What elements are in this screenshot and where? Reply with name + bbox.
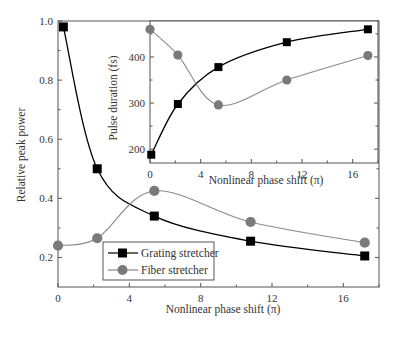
circle-marker-icon	[360, 238, 370, 248]
inset-y-tick-label: 400	[129, 51, 146, 63]
legend-item-fiber: Fiber stretcher	[108, 264, 208, 276]
legend-label-fiber: Fiber stretcher	[141, 264, 208, 276]
square-marker-icon	[118, 249, 127, 258]
circle-marker-icon	[282, 75, 291, 84]
square-marker-icon	[283, 38, 291, 46]
circle-marker-icon	[149, 186, 159, 196]
circle-marker-icon	[214, 100, 223, 109]
main-x-tick-label: 0	[55, 292, 61, 304]
square-marker-icon	[214, 63, 222, 71]
legend: Grating stretcher Fiber stretcher	[103, 242, 219, 280]
circle-marker-icon	[173, 51, 182, 60]
square-marker-icon	[150, 212, 159, 221]
main-y-tick-label: 0.8	[39, 74, 53, 86]
inset-y-axis-label: Pulse duration (fs)	[107, 55, 120, 140]
main-y-tick-label: 1.0	[39, 15, 53, 27]
fiber-curve	[58, 191, 365, 246]
circle-marker-icon	[53, 241, 63, 251]
square-marker-icon	[364, 25, 372, 33]
square-marker-icon	[93, 164, 102, 173]
square-marker-icon	[147, 151, 155, 159]
square-marker-icon	[174, 100, 182, 108]
inset-x-tick-label: 4	[198, 168, 204, 180]
main-y-tick-label: 0.2	[39, 251, 53, 263]
main-y-tick-label: 0.6	[39, 133, 53, 145]
legend-label-grating: Grating stretcher	[141, 247, 219, 260]
chart: 04812160.20.40.60.81.0 0481216200300400 …	[0, 0, 395, 337]
inset-y-tick-label: 200	[129, 143, 146, 155]
circle-marker-icon	[92, 233, 102, 243]
inset-x-axis-label: Nonlinear phase shift (π)	[209, 174, 324, 187]
main-x-axis-label: Nonlinear phase shift (π)	[166, 303, 281, 316]
circle-marker-icon	[363, 51, 372, 60]
inset-y-tick-label: 300	[129, 97, 146, 109]
square-marker-icon	[59, 22, 68, 31]
circle-marker-icon	[246, 217, 256, 227]
main-x-tick-label: 4	[127, 292, 133, 304]
square-marker-icon	[360, 251, 369, 260]
main-x-tick-label: 16	[338, 292, 350, 304]
main-y-axis-label: Relative peak power	[15, 108, 28, 203]
inset-x-tick-label: 16	[347, 168, 359, 180]
main-y-tick-label: 0.4	[39, 192, 53, 204]
circle-marker-icon	[145, 25, 154, 34]
inset-background	[150, 21, 378, 163]
circle-marker-icon	[118, 265, 128, 275]
inset-x-tick-label: 0	[147, 168, 153, 180]
square-marker-icon	[246, 237, 255, 246]
